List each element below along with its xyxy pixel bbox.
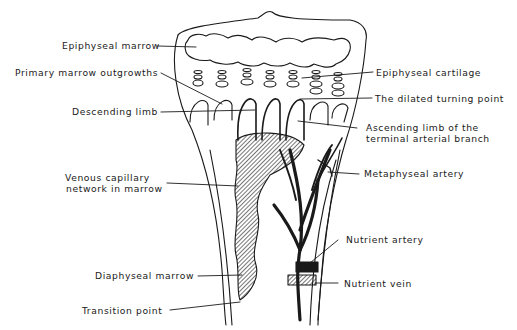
label-nutrient-vein: Nutrient vein bbox=[344, 278, 412, 289]
label-diaphyseal-marrow: Diaphyseal marrow bbox=[95, 270, 194, 281]
label-descending-limb: Descending limb bbox=[72, 106, 158, 117]
label-venous-capillary-network-line1: Venous capillary bbox=[65, 172, 150, 183]
label-metaphyseal-artery: Metaphyseal artery bbox=[364, 168, 464, 179]
label-nutrient-artery: Nutrient artery bbox=[346, 234, 424, 245]
epiphyseal-marrow-shape bbox=[185, 34, 350, 67]
label-dilated-turning-point: The dilated turning point bbox=[375, 93, 504, 104]
label-ascending-limb-line2: terminal arterial branch bbox=[366, 133, 490, 144]
label-primary-marrow-outgrowths: Primary marrow outgrowths bbox=[15, 67, 158, 78]
label-epiphyseal-cartilage: Epiphyseal cartilage bbox=[376, 67, 481, 78]
label-venous-capillary-network-line2: network in marrow bbox=[66, 183, 163, 194]
label-transition-point: Transition point bbox=[82, 305, 162, 316]
epiphyseal-cartilage-columns bbox=[193, 69, 344, 97]
nutrient-vein-vessel bbox=[288, 275, 316, 285]
label-epiphyseal-marrow: Epiphyseal marrow bbox=[62, 40, 160, 51]
label-ascending-limb-line1: Ascending limb of the bbox=[366, 122, 479, 133]
nutrient-artery-vessel bbox=[296, 262, 318, 272]
